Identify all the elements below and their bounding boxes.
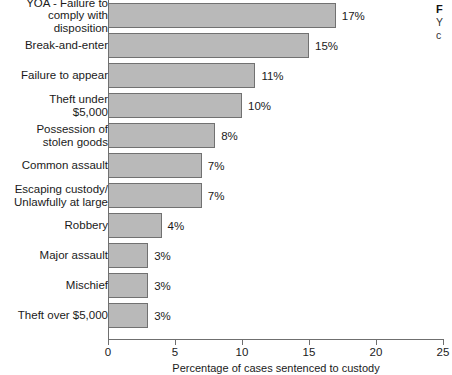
bar-row: 7% (108, 183, 443, 208)
x-axis-tick (175, 340, 176, 345)
category-label-text: Mischief (66, 279, 108, 292)
x-axis-tick-label: 10 (236, 346, 249, 358)
category-label: Break-and-enter (12, 33, 108, 58)
plot-area: YOA - Failure to comply with disposition… (108, 0, 443, 340)
category-label: YOA - Failure to comply with disposition (12, 3, 108, 28)
bar-row: 15% (108, 33, 443, 58)
bar-row: 3% (108, 243, 443, 268)
category-label-column: YOA - Failure to comply with disposition… (12, 0, 108, 340)
x-axis-tick-label: 25 (437, 346, 450, 358)
bar-row: 4% (108, 213, 443, 238)
bar-value-label: 10% (248, 100, 271, 112)
bar[interactable] (108, 63, 255, 88)
bar-value-label: 7% (208, 190, 225, 202)
x-axis-tick (443, 340, 444, 345)
bar-row: 17% (108, 3, 443, 28)
x-axis-title: Percentage of cases sentenced to custody (108, 362, 444, 374)
bar[interactable] (108, 153, 202, 178)
x-axis-tick-label: 0 (105, 346, 111, 358)
figure-caption-line-1: Y (436, 16, 452, 29)
category-label-text: Theft over $5,000 (18, 309, 108, 322)
bar-chart: YOA - Failure to comply with disposition… (0, 0, 452, 375)
category-label: Common assault (12, 153, 108, 178)
bar[interactable] (108, 123, 215, 148)
category-label: Theft over $5,000 (12, 303, 108, 328)
x-axis-tick (376, 340, 377, 345)
bar-value-label: 3% (154, 310, 171, 322)
bar-value-label: 3% (154, 250, 171, 262)
bar-row: 7% (108, 153, 443, 178)
bar-row: 8% (108, 123, 443, 148)
category-label-text: Robbery (65, 219, 108, 232)
bar[interactable] (108, 3, 336, 28)
category-label: Possession of stolen goods (12, 123, 108, 148)
category-label: Failure to appear (12, 63, 108, 88)
x-axis-tick-label: 15 (303, 346, 316, 358)
bar[interactable] (108, 273, 148, 298)
bar-value-label: 8% (221, 130, 238, 142)
x-axis-tick (108, 340, 109, 345)
x-axis-tick-label: 5 (172, 346, 178, 358)
x-axis-tick-label: 20 (370, 346, 383, 358)
bar-row: 3% (108, 273, 443, 298)
bar-value-label: 3% (154, 280, 171, 292)
category-label-text: YOA - Failure to comply with disposition (12, 0, 108, 34)
category-label-text: Escaping custody/ Unlawfully at large (14, 183, 108, 208)
category-label-text: Theft under $5,000 (12, 93, 108, 118)
category-label-text: Possession of stolen goods (36, 123, 108, 148)
category-label: Theft under $5,000 (12, 93, 108, 118)
bar[interactable] (108, 213, 162, 238)
bar-row: 3% (108, 303, 443, 328)
category-label: Robbery (12, 213, 108, 238)
category-label: Mischief (12, 273, 108, 298)
bar[interactable] (108, 243, 148, 268)
category-label-text: Major assault (40, 249, 108, 262)
figure-caption-clipped: F Y c (436, 2, 452, 42)
bar[interactable] (108, 33, 309, 58)
category-label: Major assault (12, 243, 108, 268)
bar-value-label: 7% (208, 160, 225, 172)
category-label: Escaping custody/ Unlawfully at large (12, 183, 108, 208)
bar-row: 10% (108, 93, 443, 118)
bar-value-label: 11% (261, 70, 283, 82)
bar-value-label: 17% (342, 10, 365, 22)
bar-value-label: 4% (168, 220, 185, 232)
category-label-text: Common assault (22, 159, 108, 172)
category-label-text: Break-and-enter (25, 39, 108, 52)
bar[interactable] (108, 183, 202, 208)
x-axis-tick (309, 340, 310, 345)
bar[interactable] (108, 93, 242, 118)
figure-caption-line-2: c (436, 29, 452, 42)
figure-caption-title: F (436, 2, 452, 16)
category-label-text: Failure to appear (21, 69, 108, 82)
bar-row: 11% (108, 63, 443, 88)
bar-value-label: 15% (315, 40, 338, 52)
bar[interactable] (108, 303, 148, 328)
x-axis-tick (242, 340, 243, 345)
